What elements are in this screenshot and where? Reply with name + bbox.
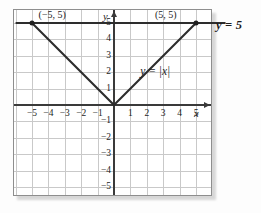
absolute-value-curve: [32, 23, 196, 105]
curve-layer: [14, 10, 213, 197]
y-tick-label: 1: [106, 84, 111, 94]
x-tick-label: −4: [43, 109, 53, 119]
x-tick-label: −3: [60, 109, 70, 119]
graph-figure: −5−4−3−2−11234554321−1−2−3−4−5 y x (−5, …: [0, 0, 261, 213]
y-tick-label: 2: [106, 67, 111, 77]
point-label-left: (−5, 5): [39, 10, 66, 20]
coordinate-plane: −5−4−3−2−11234554321−1−2−3−4−5 y x (−5, …: [13, 9, 212, 196]
x-axis-label: x: [194, 109, 199, 120]
y-tick-label: −4: [101, 166, 111, 176]
y-tick-label: −2: [101, 133, 111, 143]
point-label-right: (5, 5): [155, 10, 177, 20]
y-tick-label: −5: [101, 182, 111, 192]
equation-label-absolute-value: y = |x|: [140, 66, 170, 78]
y-axis-label: y: [103, 12, 108, 23]
y-tick-label: 4: [106, 35, 111, 45]
x-tick-label: 1: [128, 109, 133, 119]
intersection-dot-right: [194, 21, 199, 26]
y-tick-label: −3: [101, 149, 111, 159]
x-tick-label: 3: [161, 109, 166, 119]
intersection-dot-left: [30, 21, 35, 26]
x-tick-label: 4: [177, 109, 182, 119]
equation-label-horizontal-line: y = 5: [216, 19, 242, 32]
x-tick-label: −2: [76, 109, 86, 119]
x-tick-label: −5: [27, 109, 37, 119]
y-tick-label: −1: [101, 117, 111, 127]
x-tick-label: 2: [144, 109, 149, 119]
y-tick-label: 3: [106, 51, 111, 61]
